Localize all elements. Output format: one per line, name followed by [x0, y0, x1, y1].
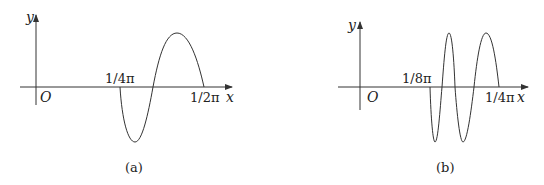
panel-a: y O 1/4π 1/2π x (a): [20, 9, 234, 175]
diagram-canvas: y O 1/4π 1/2π x (a) y O 1/8π 1/4π x (b): [0, 0, 544, 185]
origin-label-a: O: [40, 89, 52, 105]
caption-b: (b): [436, 160, 454, 175]
x-label-b: x: [517, 89, 525, 105]
tick-end-b: 1/4π: [485, 90, 515, 105]
panel-b: y O 1/8π 1/4π x (b): [338, 17, 528, 175]
tick-start-b: 1/8π: [402, 71, 432, 86]
y-label-b: y: [347, 17, 357, 33]
tick-end-a: 1/2π: [190, 90, 220, 105]
diagram-svg: y O 1/4π 1/2π x (a) y O 1/8π 1/4π x (b): [0, 0, 544, 185]
origin-label-b: O: [367, 89, 379, 105]
tick-start-a: 1/4π: [105, 71, 135, 86]
x-label-a: x: [226, 89, 234, 105]
y-label-a: y: [25, 9, 35, 25]
caption-a: (a): [125, 160, 143, 175]
